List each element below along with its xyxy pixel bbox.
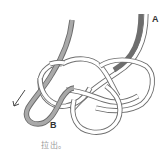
cord-a (40, 14, 152, 132)
pull-arrow-icon (13, 90, 25, 106)
end-a-label: A (152, 14, 159, 24)
knot-diagram (0, 0, 168, 163)
caption: 拉出。 (41, 139, 67, 150)
end-b-label: B (50, 120, 57, 130)
